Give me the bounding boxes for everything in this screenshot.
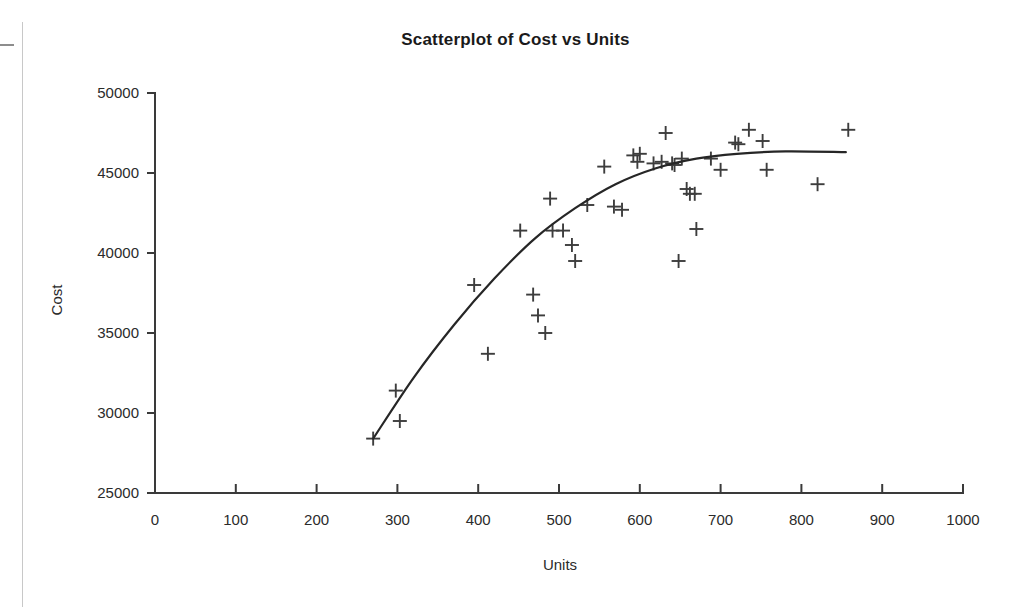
data-point-marker [543,192,557,206]
data-point-marker [565,238,579,252]
data-point-marker [841,123,855,137]
data-point-marker [811,177,825,191]
x-tick-label: 600 [627,511,652,528]
trend-curve-group [373,151,846,438]
scatterplot-canvas: 2500030000350004000045000500000100200300… [0,0,1031,607]
y-tick-label: 35000 [97,324,139,341]
data-point-marker [467,278,481,292]
tick-labels-group: 2500030000350004000045000500000100200300… [97,84,979,528]
data-point-marker [659,126,673,140]
x-tick-label: 400 [466,511,491,528]
x-tick-label: 300 [385,511,410,528]
x-tick-label: 200 [304,511,329,528]
data-point-marker [760,163,774,177]
trend-curve [373,151,846,438]
data-point-marker [597,160,611,174]
data-point-marker [607,200,621,214]
data-point-marker [742,123,756,137]
y-tick-label: 25000 [97,484,139,501]
data-point-marker [728,136,742,150]
x-tick-label: 800 [789,511,814,528]
data-point-marker [531,308,545,322]
data-point-marker [689,222,703,236]
x-axis-title: Units [543,556,577,573]
x-tick-label: 900 [870,511,895,528]
x-tick-label: 500 [546,511,571,528]
chart-figure: Scatterplot of Cost vs Units 25000300003… [0,0,1031,607]
data-point-marker [731,137,745,151]
data-point-marker [556,224,570,238]
data-point-marker [538,326,552,340]
x-tick-label: 1000 [946,511,979,528]
data-point-marker [672,254,686,268]
y-tick-label: 30000 [97,404,139,421]
data-point-marker [756,134,770,148]
x-tick-label: 700 [708,511,733,528]
y-tick-label: 45000 [97,164,139,181]
x-tick-label: 0 [151,511,159,528]
data-markers-group [366,123,855,446]
data-point-marker [633,147,647,161]
data-point-marker [714,163,728,177]
data-point-marker [704,152,718,166]
x-axis-group [155,484,963,493]
data-point-marker [513,224,527,238]
data-point-marker [615,203,629,217]
data-point-marker [568,254,582,268]
data-point-marker [481,347,495,361]
y-axis-group [147,93,155,493]
data-point-marker [393,414,407,428]
y-tick-label: 40000 [97,244,139,261]
data-point-marker [526,288,540,302]
y-tick-label: 50000 [97,84,139,101]
y-axis-title: Cost [48,284,65,316]
x-tick-label: 100 [223,511,248,528]
